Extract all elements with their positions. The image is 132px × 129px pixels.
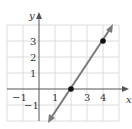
coordinate-plane: y x −1 1 3 4 3 2 1 −1 bbox=[0, 0, 132, 129]
x-tick-1: 1 bbox=[52, 92, 58, 103]
x-axis-label: x bbox=[126, 94, 132, 105]
point-2-0 bbox=[68, 86, 74, 92]
y-tick-2: 2 bbox=[30, 52, 36, 63]
x-tick-4: 4 bbox=[100, 92, 106, 103]
point-4-3 bbox=[100, 38, 106, 44]
y-axis-arrow-icon bbox=[36, 12, 42, 19]
y-tick-neg1: −1 bbox=[24, 100, 39, 111]
y-axis-label: y bbox=[28, 10, 35, 21]
y-tick-1: 1 bbox=[30, 68, 36, 79]
x-tick-3: 3 bbox=[84, 92, 90, 103]
y-tick-3: 3 bbox=[30, 36, 36, 47]
x-axis-arrow-icon bbox=[122, 86, 129, 92]
